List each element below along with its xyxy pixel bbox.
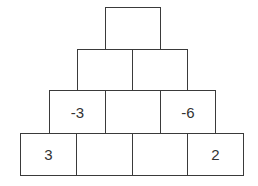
pyramid-cell-r1-c1[interactable]: [105, 7, 161, 50]
cell-value: -6: [181, 104, 194, 121]
pyramid-cell-r2-c2[interactable]: [132, 49, 188, 91]
cell-value: 2: [211, 146, 219, 163]
pyramid-cell-r3-c2[interactable]: [105, 90, 161, 134]
pyramid-cell-r3-c3[interactable]: -6: [160, 90, 216, 134]
number-pyramid: -3 -6 3 2: [0, 0, 258, 186]
pyramid-cell-r2-c1[interactable]: [77, 49, 133, 91]
pyramid-cell-r4-c3[interactable]: [132, 133, 188, 176]
cell-value: 3: [44, 146, 52, 163]
pyramid-cell-r4-c4[interactable]: 2: [187, 133, 244, 176]
pyramid-cell-r3-c1[interactable]: -3: [49, 90, 106, 134]
cell-value: -3: [71, 104, 84, 121]
pyramid-cell-r4-c2[interactable]: [76, 133, 133, 176]
pyramid-cell-r4-c1[interactable]: 3: [20, 133, 77, 176]
